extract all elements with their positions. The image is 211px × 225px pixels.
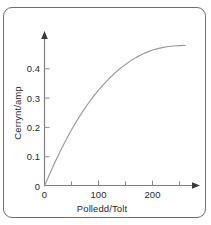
- x-tick-label-0: 0: [42, 189, 47, 200]
- x-axis-arrow-icon: [192, 182, 200, 189]
- x-tick-label-100: 100: [91, 189, 107, 200]
- y-axis-title: Cerrynt/amp: [12, 86, 23, 139]
- y-tick-label-0.4: 0.4: [27, 63, 40, 74]
- x-axis-title: Polledd/Tolt: [77, 203, 128, 214]
- y-tick-label-0.1: 0.1: [27, 151, 40, 162]
- figure-root: 0 0.1 0.2 0.3 0.4 0 100 200 Polledd/Tolt…: [0, 0, 211, 225]
- y-axis-arrow-icon: [41, 31, 48, 39]
- y-tick-label-0.3: 0.3: [27, 93, 40, 104]
- data-curve-current-voltage: [45, 45, 185, 186]
- chart-canvas: 0 0.1 0.2 0.3 0.4 0 100 200 Polledd/Tolt…: [0, 0, 211, 225]
- y-tick-label-0: 0: [35, 181, 40, 192]
- x-tick-label-200: 200: [145, 189, 161, 200]
- y-tick-label-0.2: 0.2: [27, 122, 40, 133]
